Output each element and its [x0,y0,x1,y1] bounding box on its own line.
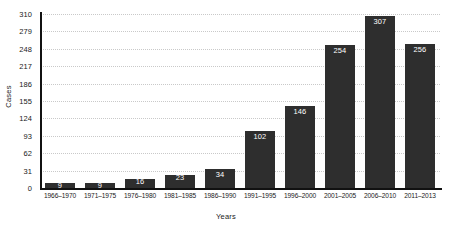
bar-value-label: 23 [165,174,195,182]
bar: 146 [285,106,315,188]
y-axis-tick-label: 217 [19,62,32,71]
bar: 16 [125,179,155,188]
x-axis-tick-label: 1991–1995 [240,192,280,199]
y-axis-tick-label: 62 [23,149,32,158]
bar-value-label: 146 [285,108,315,116]
bar-chart: Cases 0316293124155186217248279310 99162… [0,0,452,233]
y-axis-tick-label: 0 [28,184,32,193]
y-axis-tick-labels: 0316293124155186217248279310 [0,14,36,188]
bar: 254 [325,45,355,188]
x-axis-tick-label: 1971–1975 [80,192,120,199]
y-axis-tick-label: 31 [23,166,32,175]
x-axis-tick-label: 2001–2005 [320,192,360,199]
x-axis-tick-label: 1966–1970 [40,192,80,199]
x-axis-line [40,188,442,190]
plot-area: 99162334102146254307256 [40,14,440,188]
bar: 23 [165,175,195,188]
x-axis-tick-label: 1976–1980 [120,192,160,199]
bar: 256 [405,44,435,188]
y-axis-tick-label: 186 [19,79,32,88]
y-axis-tick-label: 310 [19,10,32,19]
bar-value-label: 254 [325,47,355,55]
x-axis-title: Years [0,212,452,221]
y-axis-tick-label: 93 [23,131,32,140]
bar-value-label: 307 [365,18,395,26]
y-axis-tick-label: 279 [19,27,32,36]
x-axis-tick-label: 2011–2013 [400,192,440,199]
bar-value-label: 34 [205,171,235,179]
y-axis-tick-label: 155 [19,97,32,106]
x-axis-tick-labels: 1966–19701971–19751976–19801981–19851986… [40,192,440,206]
x-axis-tick-label: 1981–1985 [160,192,200,199]
y-axis-line [40,12,42,190]
bar-value-label: 16 [125,178,155,186]
bar-value-label: 256 [405,46,435,54]
bar: 34 [205,169,235,188]
x-axis-tick-label: 1986–1990 [200,192,240,199]
bar: 102 [245,131,275,188]
y-axis-tick-label: 248 [19,44,32,53]
bar-value-label: 102 [245,133,275,141]
y-axis-tick-label: 124 [19,114,32,123]
x-axis-tick-label: 2006–2010 [360,192,400,199]
bar: 307 [365,16,395,188]
x-axis-tick-label: 1996–2000 [280,192,320,199]
